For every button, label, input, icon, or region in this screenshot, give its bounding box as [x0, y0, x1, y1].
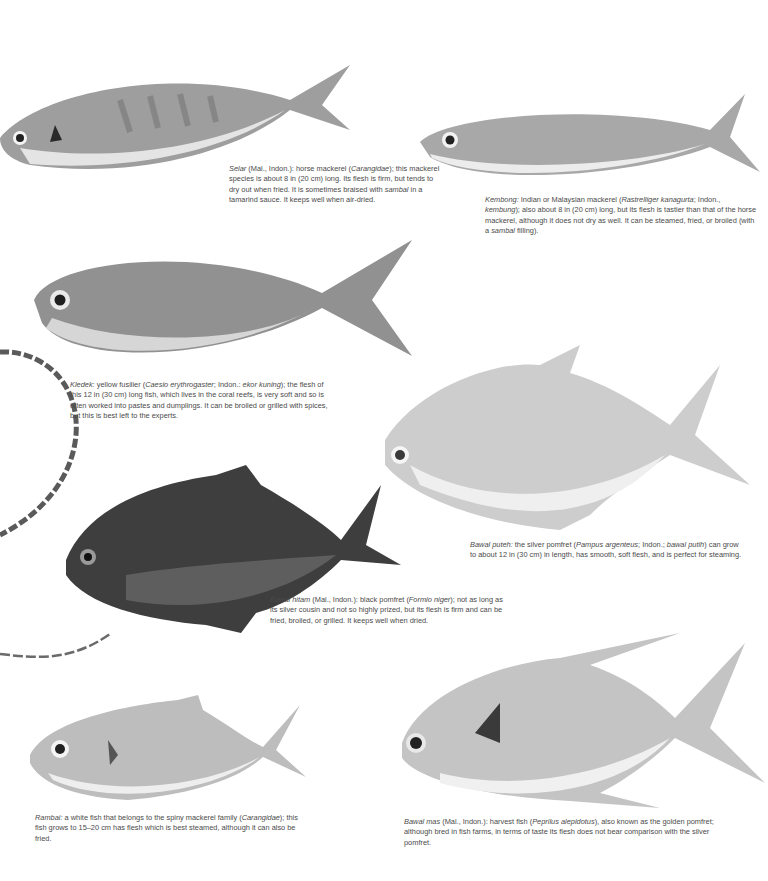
- caption-bawal-hitam: Bawal hitam (Mal., Indon.): black pomfre…: [270, 595, 510, 626]
- kledek-fish-image: [32, 238, 417, 366]
- rambai-fish-image: [28, 695, 308, 805]
- caption-selar: Selar (Mal., Indon.): horse mackerel (Ca…: [229, 164, 441, 206]
- caption-bawal-mas: Bawal mas (Mal., Indon.): harvest fish (…: [404, 817, 734, 848]
- caption-rambai: Rambai: a white fish that belongs to the…: [35, 813, 305, 844]
- bawal-puteh-fish-image: [380, 345, 755, 535]
- bawal-mas-fish-image: [400, 633, 768, 813]
- caption-bawal-puteh: Bawal puteh: the silver pomfret (Pampus …: [470, 540, 742, 561]
- caption-kledek: Kledek: yellow fusilier (Caesio erythrog…: [70, 380, 332, 422]
- selar-fish-image: [0, 60, 360, 180]
- kembong-fish-image: [420, 92, 765, 187]
- caption-kembong: Kembong: Indian or Malaysian mackerel (R…: [485, 195, 757, 237]
